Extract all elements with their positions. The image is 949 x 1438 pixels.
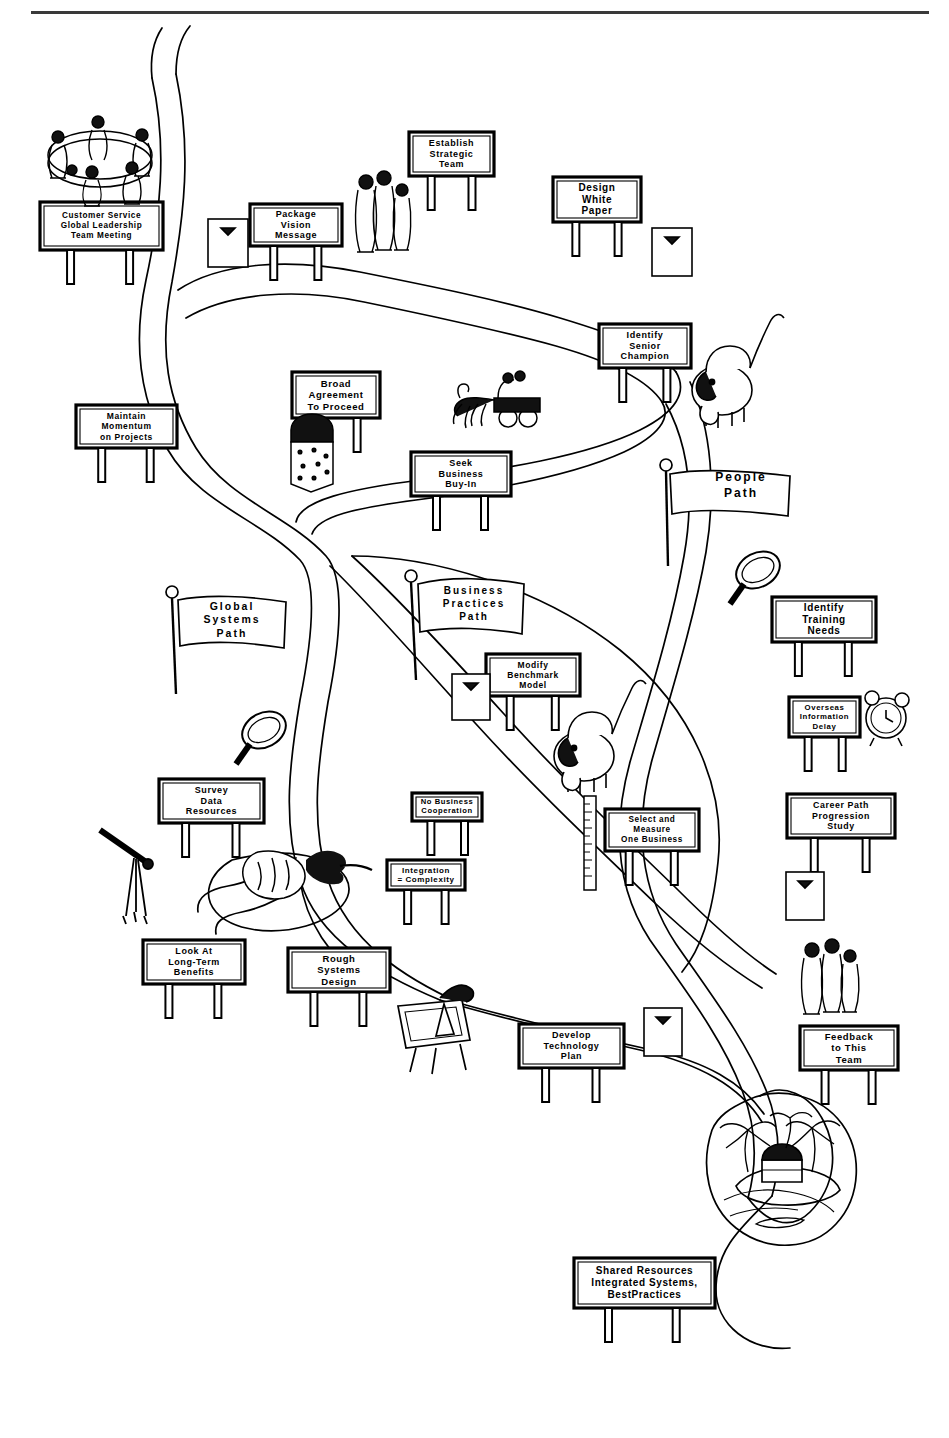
blank-notice-board [652, 228, 692, 276]
billboard-integration-equals-complexity[interactable] [387, 860, 465, 924]
horse-and-carriage [453, 371, 540, 428]
billboard-customer-service-global-leadership-team-meeting[interactable] [40, 202, 163, 284]
billboard-rough-systems-design[interactable] [288, 948, 390, 1026]
billboard-modify-benchmark-model[interactable] [486, 654, 580, 730]
alarm-clock [865, 691, 909, 746]
billboard-seek-business-buy-in[interactable] [411, 452, 511, 530]
billboard-look-at-long-term-benefits[interactable] [143, 940, 245, 1018]
flag-line: Path [459, 610, 489, 623]
standing-group-top [356, 171, 411, 252]
flag-line: Systems [203, 613, 260, 627]
surveyors-tripod [100, 830, 153, 924]
billboard-feedback-to-this-team[interactable] [800, 1026, 898, 1104]
billboard-establish-strategic-team[interactable] [409, 132, 494, 210]
flag-line: Path [724, 486, 758, 502]
ruler [584, 796, 596, 890]
billboard-develop-technology-plan[interactable] [519, 1024, 624, 1102]
billboard-identify-senior-champion[interactable] [599, 324, 691, 402]
billboard-select-and-measure-one-business[interactable] [605, 809, 699, 885]
standing-group-bottom-right [802, 939, 859, 1014]
magnifying-glass-right [730, 544, 787, 604]
billboard-no-business-cooperation[interactable] [412, 793, 482, 855]
flag-line: Business [444, 584, 504, 597]
billboard-survey-data-resources[interactable] [159, 779, 264, 857]
blank-notice-board [786, 872, 824, 920]
billboard-design-white-paper[interactable] [553, 177, 641, 256]
blank-notice-board [644, 1008, 682, 1056]
billboard-shared-resources-integrated-systems-bestpractices[interactable] [574, 1258, 715, 1342]
flag-label-people-path: PeoplePath [693, 466, 789, 506]
billboard-career-path-progression-study[interactable] [787, 794, 895, 872]
billboard-identify-training-needs[interactable] [772, 597, 876, 676]
magnifying-glass-left [236, 704, 293, 764]
flag-label-global-systems-path: GlobalSystemsPath [185, 597, 279, 643]
flag-line: Practices [443, 597, 505, 610]
diagram-canvas: Customer ServiceGlobal LeadershipTeam Me… [0, 0, 949, 1438]
roadmap-artwork [0, 0, 949, 1438]
brick-pillar [291, 414, 333, 492]
blank-notice-board [452, 674, 490, 720]
flag-line: Global [210, 600, 255, 614]
flag-line: Path [217, 627, 248, 641]
blank-notice-board [208, 219, 248, 267]
round-table-meeting-scene [48, 116, 152, 206]
billboard-package-vision-message[interactable] [250, 204, 342, 280]
elephant-top-right [692, 315, 784, 428]
tree-stump-rock [243, 851, 372, 899]
billboard-maintain-momentum-on-projects[interactable] [76, 405, 177, 482]
flag-line: People [715, 470, 766, 486]
flag-label-business-practices-path: BusinessPracticesPath [424, 580, 524, 626]
billboard-overseas-information-delay[interactable] [789, 697, 860, 771]
